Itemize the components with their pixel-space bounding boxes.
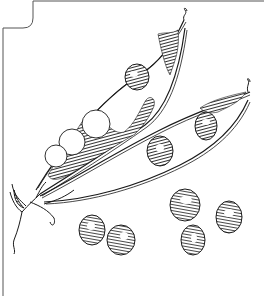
loose-pea bbox=[79, 215, 105, 245]
loose-pea bbox=[216, 201, 242, 233]
loose-peas bbox=[79, 189, 242, 255]
loose-pea bbox=[170, 189, 200, 221]
loose-pea bbox=[181, 225, 205, 255]
loose-pea bbox=[107, 225, 135, 255]
pod-pea-dark bbox=[195, 112, 217, 140]
pod-pea-open bbox=[82, 110, 110, 138]
upper-pod bbox=[36, 8, 187, 196]
pea-pod-illustration bbox=[0, 0, 264, 296]
frame bbox=[3, 1, 264, 296]
pod-pea-dark bbox=[125, 64, 149, 90]
pod-pea-open bbox=[45, 145, 67, 167]
